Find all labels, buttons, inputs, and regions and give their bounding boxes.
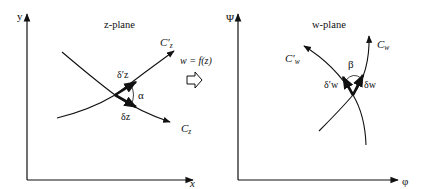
w-plane-title: w-plane (312, 19, 346, 30)
curve-c-z-label: Cz (181, 122, 191, 136)
mapping-label: w = f(z) (180, 55, 212, 67)
angle-alpha-arc (131, 85, 134, 105)
curve-cprime-w (304, 46, 366, 145)
angle-beta-label: β (348, 58, 354, 70)
w-plane-x-axis-label: φ (402, 175, 408, 187)
curve-cprime-w-label: C′w (285, 52, 300, 66)
curve-cprime-z (57, 51, 174, 118)
delta-wprime-label: δ′w (324, 79, 339, 90)
curve-cprime-z-label: C′z (160, 36, 173, 50)
z-plane-title: z-plane (104, 19, 135, 30)
w-plane-panel: Ψ φ w-plane β δ′w δw Cw C′w (226, 12, 408, 187)
delta-zprime-label: δ′z (117, 69, 129, 80)
conformal-mapping-diagram: y x z-plane α δ′z δz C′z Cz w = f(z) Ψ φ… (0, 0, 422, 189)
angle-alpha-label: α (138, 89, 144, 101)
hollow-right-arrow-icon (187, 72, 202, 88)
z-plane-x-axis-label: x (189, 177, 195, 189)
z-plane-y-axis-label: y (17, 10, 23, 22)
delta-wprime-vector (343, 77, 353, 95)
delta-w-label: δw (364, 79, 377, 90)
z-plane-panel: y x z-plane α δ′z δz C′z Cz (17, 10, 195, 189)
angle-beta-arc (346, 75, 361, 80)
delta-z-label: δz (121, 111, 131, 122)
delta-w-vector (353, 75, 363, 95)
w-plane-y-axis-label: Ψ (226, 12, 235, 24)
mapping-indicator: w = f(z) (180, 55, 212, 88)
curve-c-w-label: Cw (377, 38, 389, 52)
